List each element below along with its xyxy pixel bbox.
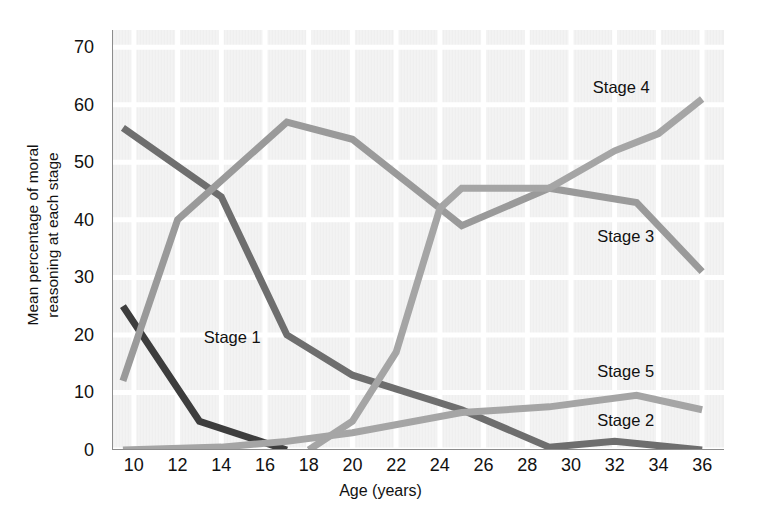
x-axis-tick-label: 22 <box>376 455 416 476</box>
y-axis-tick-label: 30 <box>54 267 94 288</box>
series-label-stage-2: Stage 2 <box>597 411 654 430</box>
y-axis-tick-labels: 010203040506070 <box>54 0 94 515</box>
x-axis-tick-label: 10 <box>114 455 154 476</box>
x-axis-tick-label: 34 <box>638 455 678 476</box>
x-axis-tick-label: 18 <box>289 455 329 476</box>
x-axis-tick-label: 12 <box>158 455 198 476</box>
x-axis-tick-label: 36 <box>682 455 722 476</box>
series-label-stage-1: Stage 1 <box>204 328 261 347</box>
y-axis-tick-label: 70 <box>54 37 94 58</box>
y-axis-title-line1: Mean percentage of moral <box>23 145 43 326</box>
x-axis-tick-label: 28 <box>507 455 547 476</box>
x-axis-tick-label: 30 <box>551 455 591 476</box>
series-label-stage-3: Stage 3 <box>597 227 654 246</box>
x-axis-tick-label: 16 <box>245 455 285 476</box>
x-axis-tick-label: 14 <box>201 455 241 476</box>
y-axis-tick-label: 10 <box>54 382 94 403</box>
y-axis-tick-label: 20 <box>54 324 94 345</box>
y-axis-tick-label: 40 <box>54 209 94 230</box>
x-axis-title: Age (years) <box>0 482 761 500</box>
y-axis-tick-label: 60 <box>54 94 94 115</box>
series-label-stage-4: Stage 4 <box>593 78 650 97</box>
y-axis-tick-label: 0 <box>54 440 94 461</box>
x-axis-tick-label: 24 <box>420 455 460 476</box>
series-label-stage-5: Stage 5 <box>597 362 654 381</box>
x-axis-tick-label: 32 <box>595 455 635 476</box>
y-axis-tick-label: 50 <box>54 152 94 173</box>
x-axis-tick-label: 20 <box>332 455 372 476</box>
x-axis-tick-label: 26 <box>464 455 504 476</box>
chart-figure: Mean percentage of moral reasoning at ea… <box>0 0 761 515</box>
